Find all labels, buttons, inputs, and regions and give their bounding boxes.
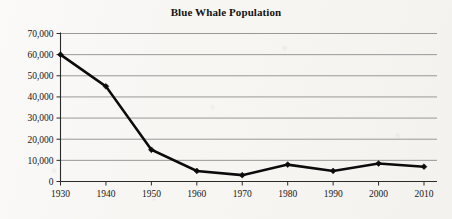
y-axis-tick-label: 0 (49, 177, 54, 187)
x-axis-tick-label: 1950 (142, 189, 161, 199)
x-axis-tick-label: 1930 (51, 189, 70, 199)
data-point-marker (239, 172, 245, 178)
y-axis-tick-label: 50,000 (27, 71, 53, 81)
gridlines-group (61, 34, 438, 161)
population-series-markers (58, 52, 427, 178)
y-axis-tick-label: 60,000 (27, 50, 53, 60)
x-axis-tick-label: 1960 (187, 189, 206, 199)
y-axis-tick-label: 30,000 (27, 113, 53, 123)
x-axis-tick-label: 2010 (415, 189, 434, 199)
y-axis-tick-label: 10,000 (27, 156, 53, 166)
x-axis-tick-label: 1970 (233, 189, 252, 199)
y-axis-tick-label: 20,000 (27, 135, 53, 145)
data-point-marker (330, 168, 336, 174)
x-axis-tick-label: 1990 (324, 189, 343, 199)
y-axis-tick-label: 70,000 (27, 29, 53, 39)
x-axis-tick-label: 1940 (96, 189, 115, 199)
data-point-marker (376, 161, 382, 167)
data-point-marker (285, 162, 291, 168)
x-axis-tick-label: 1980 (278, 189, 297, 199)
x-axis-tick-label: 2000 (369, 189, 388, 199)
y-axis-ticks-group: 010,00020,00030,00040,00050,00060,00070,… (27, 29, 60, 187)
line-chart-plot: 010,00020,00030,00040,00050,00060,00070,… (0, 0, 452, 219)
chart-container: Blue Whale Population 010,00020,00030,00… (0, 0, 452, 219)
data-point-marker (421, 164, 427, 170)
x-axis-ticks-group: 193019401950196019701980199020002010 (51, 182, 434, 199)
y-axis-tick-label: 40,000 (27, 92, 53, 102)
population-series-line (61, 55, 425, 176)
